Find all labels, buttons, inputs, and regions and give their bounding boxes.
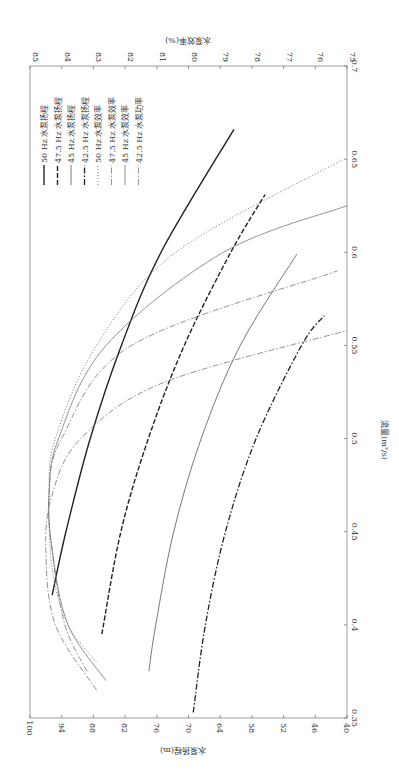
series-line-2 (149, 254, 297, 671)
head-tick-label: 100 (25, 720, 34, 735)
head-tick-label: 46 (310, 723, 319, 733)
flow-tick-label: 0.4 (350, 618, 359, 631)
efficiency-tick-label: 81 (158, 52, 167, 62)
efficiency-tick-label: 79 (221, 52, 230, 62)
legend-label: 42.5 Hz 水泵扬程 (80, 97, 90, 163)
series-line-6 (49, 206, 347, 681)
flow-tick-label: 0.35 (350, 709, 359, 727)
series-line-7 (46, 331, 347, 691)
flow-tick-label: 0.45 (350, 523, 359, 541)
head-tick-label: 40 (342, 723, 351, 733)
flow-tick-label: 0.7 (350, 60, 359, 73)
legend-label: 45 Hz 水泵效率 (120, 105, 130, 163)
efficiency-tick-label: 85 (31, 52, 40, 62)
legend-label: 47.5 Hz 水泵效率 (107, 97, 117, 163)
series-line-0 (52, 129, 234, 595)
efficiency-tick-label: 78 (253, 52, 262, 62)
plot-area: 7576777879808182838485404652586470768288… (25, 36, 390, 756)
efficiency-tick-label: 83 (94, 52, 103, 62)
series-line-5 (48, 271, 337, 672)
rotated-chart: 7576777879808182838485404652586470768288… (0, 0, 399, 774)
efficiency-tick-label: 77 (285, 52, 294, 62)
efficiency-tick-label: 76 (316, 52, 325, 62)
head-tick-label: 88 (88, 723, 97, 733)
series-line-1 (102, 195, 265, 635)
head-tick-label: 94 (57, 723, 66, 733)
head-axis-title: 水泵扬程(m) (160, 746, 206, 756)
legend-label: 47.5 Hz 水泵扬程 (53, 97, 63, 163)
plot-frame (30, 66, 347, 718)
flow-tick-label: 0.6 (350, 246, 359, 259)
head-tick-label: 64 (215, 723, 224, 733)
efficiency-tick-label: 80 (190, 52, 199, 62)
legend-label: 45 Hz 水泵扬程 (66, 105, 76, 163)
head-tick-label: 70 (184, 723, 193, 733)
flow-tick-label: 0.55 (350, 337, 359, 355)
flow-tick-label: 0.65 (350, 150, 359, 168)
efficiency-tick-label: 84 (63, 52, 72, 62)
head-tick-label: 52 (279, 723, 288, 733)
legend-label: 50 Hz 水泵效率 (93, 105, 103, 163)
legend-label: 50 Hz 水泵扬程 (39, 105, 49, 163)
flow-tick-label: 0.5 (350, 432, 359, 445)
efficiency-tick-label: 82 (126, 52, 135, 62)
head-tick-label: 76 (152, 723, 161, 733)
head-tick-label: 82 (120, 723, 129, 733)
legend-label: 42.5 Hz 水泵功率 (134, 97, 144, 163)
series-line-4 (49, 159, 344, 662)
series-line-3 (193, 316, 324, 713)
flow-axis-title: 流量(m³/s) (380, 420, 390, 460)
efficiency-axis-title: 水泵效率(%) (165, 36, 211, 46)
head-tick-label: 58 (247, 723, 256, 733)
